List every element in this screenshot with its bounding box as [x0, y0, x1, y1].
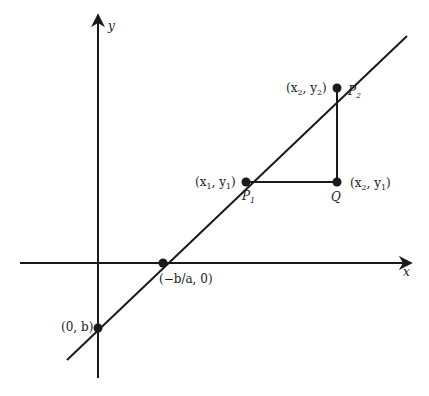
p1-name-label: P1: [241, 189, 255, 205]
p1-coord-label: (x1, y1): [195, 175, 236, 191]
p2-point: [333, 84, 342, 93]
p1-point: [242, 178, 251, 187]
q-coord-label: (x2, y1): [350, 176, 391, 192]
p2-name-label: P2: [347, 84, 361, 100]
x-intercept-label: (−b/a, 0): [159, 272, 213, 286]
y-intercept-label: (0, b): [61, 320, 93, 334]
x-intercept-point: [159, 259, 168, 268]
x-axis-label: x: [403, 265, 410, 279]
y-axis-label: y: [107, 19, 115, 33]
y-intercept-point: [94, 324, 103, 333]
coordinate-diagram: y x (−b/a, 0) (0, b) (x1, y1) P1 (x2, y1…: [0, 0, 429, 396]
q-point: [333, 178, 342, 187]
p2-coord-label: (x2, y2): [286, 81, 327, 97]
q-name-label: Q: [331, 190, 341, 204]
